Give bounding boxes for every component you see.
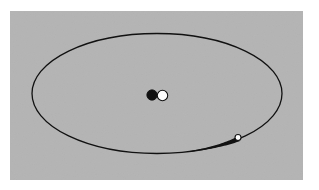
orbiting-object-marker <box>235 135 241 141</box>
figure-root <box>0 0 319 190</box>
secondary-body-marker <box>157 90 167 100</box>
orbit-diagram-canvas <box>0 0 319 190</box>
primary-body-marker <box>147 90 157 100</box>
